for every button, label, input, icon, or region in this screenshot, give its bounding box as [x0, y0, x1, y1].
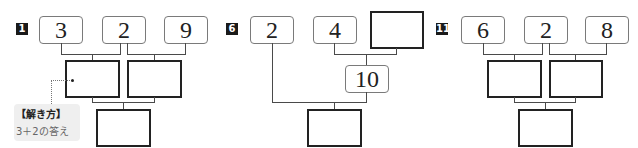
connector-line: [366, 54, 367, 65]
hint-title: 【解き方】: [16, 106, 66, 121]
answer-box[interactable]: [549, 60, 603, 98]
given-number-box: 3: [39, 16, 83, 44]
connector-line: [272, 43, 273, 103]
connector-line: [127, 54, 186, 55]
answer-box[interactable]: [370, 11, 424, 49]
given-number-box: 8: [585, 16, 629, 44]
hint-pointer-dot: [71, 79, 74, 82]
connector-line: [334, 102, 335, 109]
connector-line: [61, 54, 121, 55]
connector-line: [545, 102, 546, 109]
given-number-box: 2: [102, 16, 146, 44]
given-number-box: 2: [524, 16, 568, 44]
answer-box[interactable]: [96, 109, 151, 147]
hint-leader-line: [51, 80, 52, 104]
given-number-box: 2: [250, 16, 294, 44]
answer-box[interactable]: [518, 109, 573, 147]
problem-number-badge: 6: [226, 23, 238, 35]
connector-line: [549, 54, 607, 55]
connector-line: [272, 102, 367, 103]
connector-line: [123, 102, 124, 109]
hint-leader-line: [51, 80, 72, 81]
problem-number-badge: 11: [436, 23, 448, 35]
connector-line: [483, 54, 543, 55]
answer-box[interactable]: [487, 60, 542, 98]
answer-box[interactable]: [127, 60, 182, 98]
given-number-box: 6: [461, 16, 505, 44]
hint-callout: 【解き方】 3＋2の答え: [14, 104, 80, 141]
given-number-box: 9: [164, 16, 208, 44]
hint-text: 3＋2の答え: [16, 123, 69, 138]
given-number-box: 10: [345, 65, 389, 93]
problem-number-badge: 1: [16, 23, 28, 35]
given-number-box: 4: [313, 16, 357, 44]
answer-box[interactable]: [307, 109, 362, 147]
